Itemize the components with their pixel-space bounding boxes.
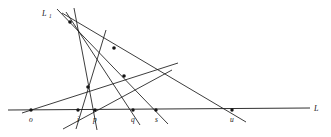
- transversal-lines: [22, 8, 246, 130]
- base-point-label-q: q: [131, 115, 135, 124]
- base-point-s: [154, 108, 157, 111]
- upper-line-label: L: [41, 9, 47, 18]
- point-label-group: oipqsu: [29, 115, 234, 124]
- base-point-label-i: i: [77, 115, 79, 124]
- base-point-label-u: u: [230, 115, 234, 124]
- upper-line-subscript-label: 1: [49, 13, 52, 19]
- base-point-o: [29, 108, 32, 111]
- geometry-figure: oipqsu L L 1: [0, 0, 331, 137]
- base-point-label-p: p: [92, 115, 97, 124]
- base-line-label: L: [313, 104, 319, 113]
- line-apex-to-s: [57, 9, 168, 124]
- line-o-to-upright: [22, 63, 178, 113]
- intersection-node-upper-middle: [112, 46, 116, 50]
- base-point-u: [230, 108, 233, 111]
- line-apex-to-q: [66, 12, 140, 125]
- intersection-node-mid-right: [122, 74, 126, 78]
- intersection-node-apex: [68, 20, 72, 24]
- base-point-p: [93, 108, 96, 111]
- intersection-node-group: [68, 20, 126, 89]
- base-point-label-o: o: [29, 115, 33, 124]
- line-apex-to-u: [62, 13, 246, 122]
- line-through-i: [74, 8, 97, 130]
- intersection-node-mid-left: [86, 85, 90, 89]
- base-line-group: [8, 108, 310, 110]
- base-line-L: [8, 108, 310, 110]
- figure-canvas: oipqsu L L 1: [0, 0, 331, 137]
- base-point-label-s: s: [155, 115, 158, 124]
- base-point-i: [76, 108, 79, 111]
- base-point-q: [131, 108, 134, 111]
